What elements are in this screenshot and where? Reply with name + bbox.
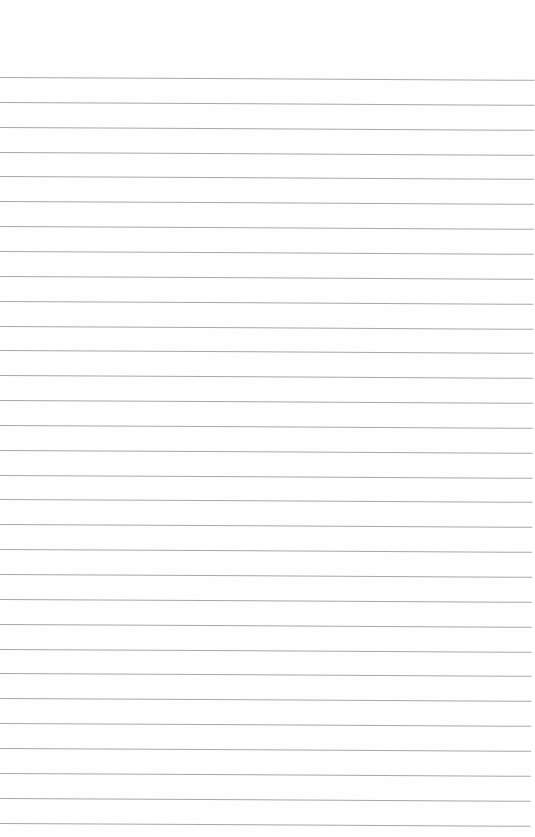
- ruled-line: [0, 748, 531, 752]
- ruled-line: [0, 773, 531, 777]
- ruled-line: [0, 301, 533, 305]
- ruled-line: [0, 649, 532, 653]
- ruled-line: [0, 475, 533, 479]
- ruled-line: [0, 549, 532, 553]
- ruled-line: [0, 350, 533, 354]
- ruled-line: [0, 574, 532, 578]
- ruled-line: [0, 201, 534, 205]
- ruled-line: [0, 127, 534, 131]
- ruled-line: [0, 798, 531, 802]
- ruled-line: [0, 425, 533, 429]
- ruled-line: [0, 375, 533, 379]
- ruled-line: [0, 152, 534, 156]
- ruled-line: [0, 723, 531, 727]
- ruled-line: [0, 599, 532, 603]
- ruled-line: [0, 499, 532, 503]
- ruled-lines: [0, 0, 535, 837]
- ruled-line: [0, 822, 531, 826]
- ruled-line: [0, 176, 534, 180]
- ruled-line: [0, 624, 532, 628]
- ruled-line: [0, 673, 531, 677]
- ruled-line: [0, 226, 534, 230]
- ruled-line: [0, 251, 534, 255]
- ruled-line: [0, 77, 535, 81]
- ruled-line: [0, 400, 533, 404]
- ruled-line: [0, 102, 534, 106]
- ruled-line: [0, 524, 532, 528]
- ruled-line: [0, 325, 533, 329]
- ruled-line: [0, 698, 531, 702]
- ruled-line: [0, 276, 534, 280]
- ruled-line: [0, 450, 533, 454]
